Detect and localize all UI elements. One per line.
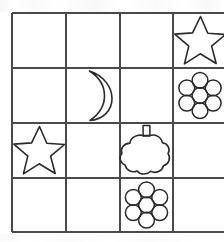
cell-hit-area[interactable]	[66, 178, 120, 232]
cell-hit-area[interactable]	[173, 123, 224, 178]
grid-cell-r4c4[interactable]	[173, 178, 224, 232]
cell-hit-area[interactable]	[12, 68, 66, 123]
cell-hit-area[interactable]	[66, 13, 120, 68]
cell-hit-area[interactable]	[12, 178, 66, 232]
grid-cell-r1c3[interactable]	[120, 13, 173, 68]
grid-cell-r3c2[interactable]	[66, 123, 120, 178]
cell-hit-area[interactable]	[120, 178, 173, 232]
grid-cell-r2c2[interactable]	[66, 68, 120, 123]
grid-cell-r1c1[interactable]	[12, 13, 66, 68]
grid-cell-r4c2[interactable]	[66, 178, 120, 232]
cell-hit-area[interactable]	[66, 123, 120, 178]
grid-cell-r3c3[interactable]	[120, 123, 173, 178]
cell-hit-area[interactable]	[12, 13, 66, 68]
cell-hit-area[interactable]	[120, 68, 173, 123]
grid-cell-r2c3[interactable]	[120, 68, 173, 123]
grid-cell-r3c4[interactable]	[173, 123, 224, 178]
cell-hit-area[interactable]	[173, 178, 224, 232]
shape-grid	[0, 0, 224, 242]
grid-cell-r2c4[interactable]	[173, 68, 224, 123]
grid-cells	[12, 13, 224, 232]
grid-cell-r1c2[interactable]	[66, 13, 120, 68]
grid-cell-r1c4[interactable]	[173, 13, 224, 68]
cell-hit-area[interactable]	[120, 13, 173, 68]
grid-cell-r4c3[interactable]	[120, 178, 173, 232]
grid-cell-r4c1[interactable]	[12, 178, 66, 232]
grid-cell-r3c1[interactable]	[12, 123, 66, 178]
grid-cell-r2c1[interactable]	[12, 68, 66, 123]
